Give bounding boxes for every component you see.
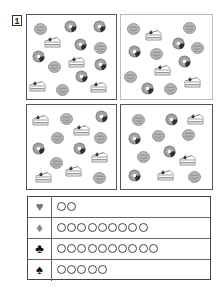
cookie-icon xyxy=(164,81,177,99)
donut-icon xyxy=(75,69,88,87)
donut-icon xyxy=(165,112,178,130)
donut-icon xyxy=(128,131,141,149)
cookie-icon xyxy=(124,69,137,87)
cookie-icon xyxy=(56,82,69,100)
heart-icon: ♥ xyxy=(28,197,52,217)
donut-icon xyxy=(163,144,176,162)
donut-icon xyxy=(172,36,185,54)
tally-row-diamond: ♦ xyxy=(28,218,210,239)
tally-circle xyxy=(77,223,86,232)
donut-icon xyxy=(32,141,45,159)
cookie-icon xyxy=(127,21,140,39)
donut-icon xyxy=(128,168,141,186)
tally-circle xyxy=(98,223,107,232)
cake-icon xyxy=(35,169,52,187)
tally-circle xyxy=(77,244,86,253)
tally-circle xyxy=(88,244,97,253)
cookie-icon xyxy=(137,149,150,167)
tally-row-spade: ♠ xyxy=(28,260,210,281)
cookie-icon xyxy=(94,40,107,58)
cookie-icon xyxy=(188,169,201,187)
donut-icon xyxy=(95,109,108,127)
cookie-icon xyxy=(191,40,204,58)
tally-circle xyxy=(118,244,127,253)
tally-circle xyxy=(149,244,158,253)
cake-icon xyxy=(44,34,61,52)
tally-circle xyxy=(118,223,127,232)
tally-row-heart: ♥ xyxy=(28,197,210,218)
tally-circle xyxy=(57,202,66,211)
tally-circle xyxy=(108,223,117,232)
tally-circle xyxy=(88,265,97,274)
donut-icon xyxy=(32,49,45,67)
tally-table: ♥ ♦ ♣ ♠ xyxy=(27,196,211,280)
cake-icon xyxy=(73,122,90,140)
donut-icon xyxy=(141,81,154,99)
cake-icon xyxy=(157,167,174,185)
tally-circle xyxy=(67,202,76,211)
tally-circle xyxy=(128,244,137,253)
cake-icon xyxy=(154,62,171,80)
tally-circle xyxy=(57,244,66,253)
donut-icon xyxy=(128,44,141,62)
cookie-icon xyxy=(60,111,73,129)
tally-circle xyxy=(67,244,76,253)
cake-icon xyxy=(32,112,49,130)
tally-circle xyxy=(57,265,66,274)
cake-icon xyxy=(179,152,196,170)
tally-circle xyxy=(67,223,76,232)
tally-circle xyxy=(139,244,148,253)
donut-icon xyxy=(74,37,87,55)
cake-icon xyxy=(184,74,201,92)
tally-circle xyxy=(67,265,76,274)
donut-icon xyxy=(73,141,86,159)
donut-icon xyxy=(93,19,106,37)
donut-icon xyxy=(94,57,107,75)
cookie-icon xyxy=(93,170,106,188)
tally-circle xyxy=(98,244,107,253)
cookie-icon xyxy=(94,130,107,148)
cookie-icon xyxy=(51,130,64,148)
cake-icon xyxy=(145,27,162,45)
cake-icon xyxy=(29,78,46,96)
donut-icon xyxy=(64,19,77,37)
tally-circle xyxy=(88,223,97,232)
cake-icon xyxy=(65,163,82,181)
tally-circle xyxy=(128,223,137,232)
tally-circle xyxy=(139,223,148,232)
cake-icon xyxy=(90,79,107,97)
cookie-icon xyxy=(132,112,145,130)
donut-icon xyxy=(178,54,191,72)
cake-icon xyxy=(91,149,108,167)
tally-circle xyxy=(98,265,107,274)
club-icon: ♣ xyxy=(28,239,52,259)
tally-circle xyxy=(57,223,66,232)
cookie-icon xyxy=(182,127,195,145)
diamond-icon: ♦ xyxy=(28,218,52,238)
question-number: 1 xyxy=(12,15,22,26)
cookie-icon xyxy=(48,59,61,77)
tally-row-club: ♣ xyxy=(28,239,210,260)
tally-circle xyxy=(77,265,86,274)
tally-circle xyxy=(108,244,117,253)
spade-icon: ♠ xyxy=(28,260,52,281)
